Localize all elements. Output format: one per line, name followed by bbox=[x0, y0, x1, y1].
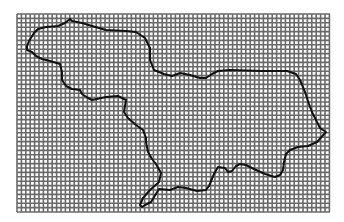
grid-background bbox=[17, 14, 330, 212]
grid-layer bbox=[17, 14, 330, 212]
map-canvas bbox=[0, 0, 344, 222]
